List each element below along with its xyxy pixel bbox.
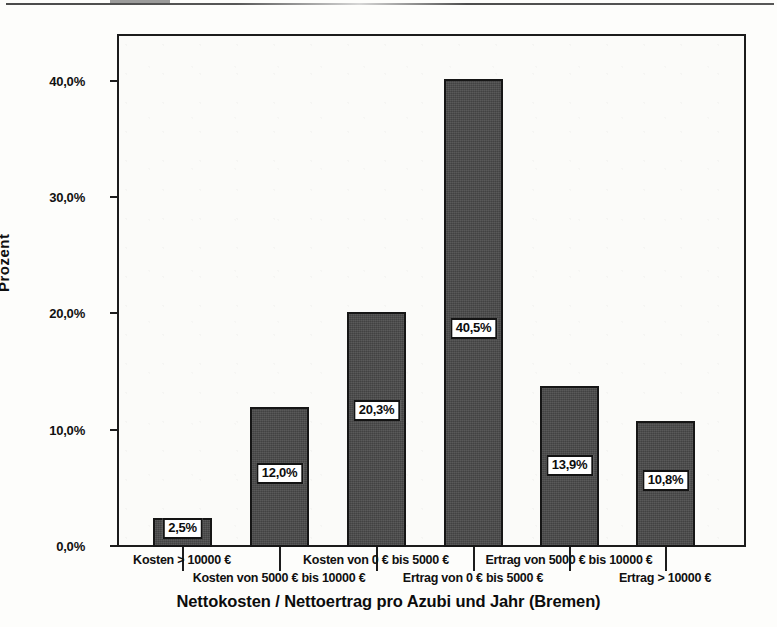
x-axis: Kosten > 10000 € Kosten von 5000 € bis 1… [0, 0, 777, 627]
x-axis-title: Nettokosten / Nettoertrag pro Azubi und … [0, 592, 777, 611]
bar-chart: Prozent 0,0% 10,0% 20,0% 30,0% 40,0% 2,5… [0, 0, 777, 627]
x-label-ertrag-ueber-10000: Ertrag > 10000 € [619, 571, 711, 585]
x-label-ertrag-5000-10000: Ertrag von 5000 € bis 10000 € [485, 553, 652, 567]
x-label-ertrag-0-5000: Ertrag von 0 € bis 5000 € [403, 571, 543, 585]
x-label-kosten-0-5000: Kosten von 0 € bis 5000 € [303, 553, 449, 567]
x-tick-mark-1 [279, 547, 281, 571]
x-tick-mark-5 [665, 547, 667, 571]
x-label-kosten-ueber-10000: Kosten > 10000 € [133, 553, 231, 567]
x-tick-mark-3 [473, 547, 475, 571]
x-label-kosten-5000-10000: Kosten von 5000 € bis 10000 € [193, 571, 366, 585]
